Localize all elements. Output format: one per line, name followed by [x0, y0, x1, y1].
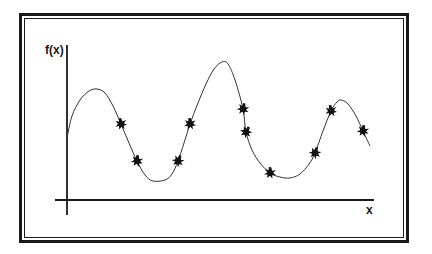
- sample-point-star-icon: [325, 105, 337, 117]
- sample-point-star-icon: [130, 154, 144, 168]
- sample-point-star-icon: [115, 118, 127, 130]
- sample-point-star-icon: [184, 117, 197, 130]
- function-curve: [67, 61, 370, 181]
- sample-point-star-icon: [236, 101, 251, 116]
- sample-point-star-icon: [238, 124, 254, 140]
- sample-point-star-icon: [170, 153, 186, 169]
- sample-point-star-icon: [263, 166, 277, 180]
- sample-point-star-icon: [307, 145, 323, 161]
- x-axis-label: x: [366, 204, 373, 216]
- y-axis-label: f(x): [45, 44, 64, 56]
- sample-point-markers: [115, 101, 370, 179]
- sample-point-star-icon: [356, 124, 371, 139]
